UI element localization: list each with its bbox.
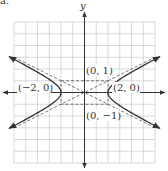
label-vertex-left: (−2, 0)	[18, 82, 53, 93]
label-co-vertex-bottom: (0, −1)	[86, 110, 121, 121]
part-label: a.	[0, 0, 9, 6]
y-axis-label: y	[79, 0, 86, 11]
label-vertex-right: (2, 0)	[113, 82, 140, 93]
label-co-vertex-top: (0, 1)	[86, 65, 113, 76]
hyperbola-graph: a. y (0, 1) (0, −1) (−2, 0) (2, 0)	[0, 0, 168, 171]
